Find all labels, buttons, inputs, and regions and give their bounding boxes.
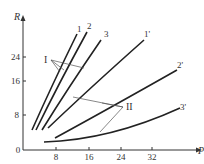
origin-label: 0 [16, 145, 21, 155]
group-II-label: II [126, 101, 133, 112]
y-axis-arrow-icon [21, 15, 26, 21]
chart-svg: 8 16 24 32 0 8 16 24 P R 1 2 3 1' 2' 3' … [0, 0, 204, 164]
curve-label-2: 2 [87, 21, 92, 31]
x-tick-8: 8 [54, 152, 59, 162]
x-tick-24: 24 [117, 152, 127, 162]
x-axis-label: P [197, 145, 204, 156]
y-axis-label: R [13, 11, 20, 22]
curve-label-2p: 2' [177, 60, 184, 70]
curve-3 [42, 40, 101, 130]
curve-label-3: 3 [104, 29, 109, 39]
y-tick-16: 16 [11, 76, 21, 86]
x-tick-32: 32 [148, 152, 157, 162]
chart: 8 16 24 32 0 8 16 24 P R 1 2 3 1' 2' 3' … [0, 0, 204, 164]
curve-1 [32, 34, 77, 130]
y-tick-8: 8 [15, 110, 20, 120]
group-I-label: I [44, 54, 47, 65]
curve-label-3p: 3' [180, 102, 187, 112]
curve-label-1p: 1' [144, 29, 151, 39]
x-tick-16: 16 [85, 152, 95, 162]
curve-label-1: 1 [77, 24, 82, 34]
y-tick-24: 24 [11, 52, 21, 62]
